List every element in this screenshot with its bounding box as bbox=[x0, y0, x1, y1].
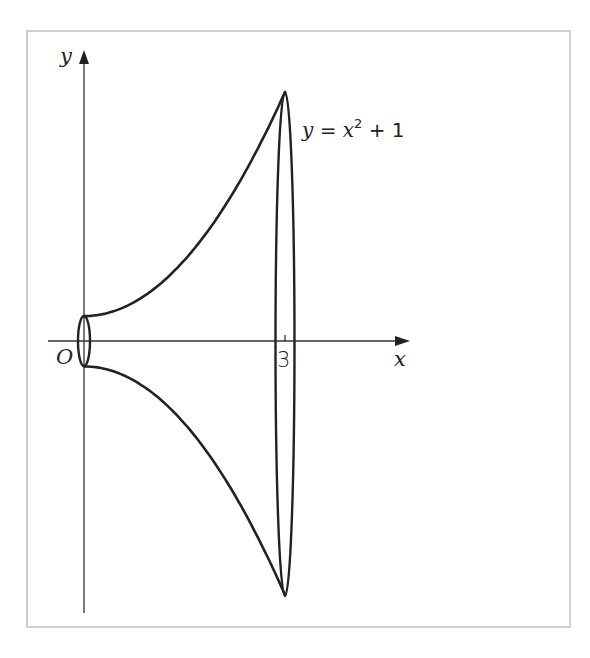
lower-curve bbox=[84, 366, 285, 595]
cross-section-x3 bbox=[276, 92, 295, 596]
upper-curve bbox=[84, 92, 285, 316]
solid-of-revolution-figure: y x O 3 y = x2 + 1 bbox=[0, 0, 590, 658]
curve-equation-label: y = x2 + 1 bbox=[301, 116, 405, 142]
x-tick-label-3: 3 bbox=[277, 348, 290, 372]
origin-label: O bbox=[56, 345, 73, 369]
figure-frame bbox=[27, 31, 570, 627]
x-axis-label: x bbox=[394, 347, 406, 371]
x-axis-arrow-icon bbox=[395, 336, 410, 346]
y-axis-label: y bbox=[59, 44, 73, 68]
y-axis-arrow-icon bbox=[79, 50, 89, 64]
